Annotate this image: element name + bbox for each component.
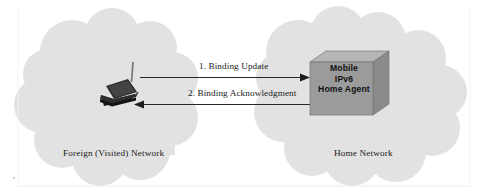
- home-agent-box-label: Mobile IPv6 Home Agent: [314, 63, 374, 95]
- diagram-canvas: 1. Binding Update 2. Binding Acknowledgm…: [0, 0, 485, 195]
- arrow-label-binding-update: 1. Binding Update: [199, 61, 268, 71]
- cloud-caption-foreign-network: Foreign (Visited) Network: [63, 148, 164, 158]
- home-agent-line-3: Home Agent: [314, 84, 374, 95]
- cloud-caption-home-network: Home Network: [334, 148, 393, 158]
- home-agent-line-1: Mobile: [314, 63, 374, 74]
- home-agent-line-2: IPv6: [314, 74, 374, 85]
- arrow-label-binding-acknowledgment: 2. Binding Acknowledgment: [188, 88, 296, 98]
